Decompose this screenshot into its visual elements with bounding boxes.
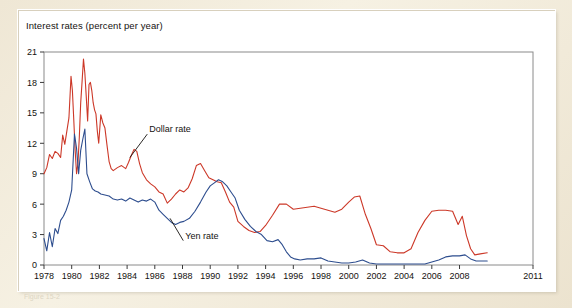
x-axis-tick-label: 1998: [311, 271, 331, 281]
y-axis-tick-label: 9: [32, 169, 37, 179]
x-axis-tick-label: 1980: [62, 271, 82, 281]
x-axis-tick-label: 2008: [450, 271, 470, 281]
y-axis-tick-label: 6: [32, 200, 37, 210]
line-chart-svg: 0369121518211978198019821984198619881990…: [0, 0, 572, 308]
x-axis-tick-label: 1984: [117, 271, 137, 281]
x-axis-tick-label: 1996: [283, 271, 303, 281]
y-axis-tick-label: 15: [27, 108, 37, 118]
y-axis-tick-label: 21: [27, 47, 37, 57]
chart-canvas: 0369121518211978198019821984198619881990…: [0, 0, 572, 308]
y-axis-tick-label: 0: [32, 260, 37, 270]
x-axis-tick-label: 1990: [200, 271, 220, 281]
annotation-label-dollar-rate: Dollar rate: [149, 124, 191, 134]
plot-area: [44, 52, 533, 265]
x-axis-tick-label: 2002: [366, 271, 386, 281]
y-axis-tick-label: 12: [27, 139, 37, 149]
x-axis-tick-label: 2011: [523, 271, 542, 281]
annotation-label-yen-rate: Yen rate: [185, 231, 218, 241]
figure-footnote: Figure 15-2: [24, 293, 324, 307]
x-axis-tick-label: 1992: [228, 271, 248, 281]
figure-frame: Interest rates (percent per year) 036912…: [0, 0, 572, 308]
y-axis-tick-label: 18: [27, 78, 37, 88]
x-axis-tick-label: 1986: [145, 271, 165, 281]
x-axis-tick-label: 2000: [339, 271, 359, 281]
y-axis-tick-label: 3: [32, 230, 37, 240]
x-axis-tick-label: 1988: [172, 271, 192, 281]
x-axis-tick-label: 1978: [34, 271, 54, 281]
x-axis-tick-label: 2006: [422, 271, 442, 281]
x-axis-tick-label: 1982: [89, 271, 109, 281]
x-axis-tick-label: 1994: [256, 271, 276, 281]
x-axis-tick-label: 2004: [394, 271, 414, 281]
